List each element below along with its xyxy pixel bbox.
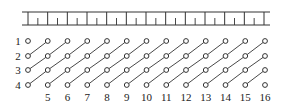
connection-line — [147, 56, 167, 70]
connection-line — [127, 41, 147, 56]
row-labels: 1234 — [15, 35, 21, 91]
node-circle — [85, 54, 90, 59]
node-circle — [45, 83, 50, 88]
node-circle — [164, 68, 169, 73]
diagonal-connections — [28, 41, 265, 85]
node-circle — [124, 83, 129, 88]
column-label: 10 — [141, 91, 153, 103]
node-circle — [105, 39, 110, 44]
node-circle — [203, 54, 208, 59]
connection-line — [48, 56, 68, 70]
node-circle — [65, 83, 70, 88]
node-circle — [223, 39, 228, 44]
connection-line — [147, 70, 167, 85]
node-circle — [243, 39, 248, 44]
connection-line — [147, 41, 167, 56]
node-circle — [85, 83, 90, 88]
connection-line — [107, 41, 127, 56]
connection-line — [68, 41, 88, 56]
column-label: 13 — [200, 91, 212, 103]
node-circle — [45, 39, 50, 44]
node-circle — [105, 68, 110, 73]
connection-line — [245, 41, 265, 56]
connection-line — [87, 41, 107, 56]
column-label: 16 — [260, 91, 272, 103]
node-circle — [26, 54, 31, 59]
column-label: 12 — [181, 91, 192, 103]
connection-line — [226, 56, 246, 70]
connection-line — [206, 56, 226, 70]
node-circle — [164, 54, 169, 59]
ruler-scale — [22, 12, 270, 25]
node-circle — [124, 54, 129, 59]
connection-line — [245, 70, 265, 85]
connection-line — [226, 41, 246, 56]
node-circle — [203, 39, 208, 44]
node-circle — [144, 39, 149, 44]
connection-line — [206, 70, 226, 85]
column-label: 6 — [65, 91, 71, 103]
node-circle — [164, 83, 169, 88]
connection-line — [166, 56, 186, 70]
column-label: 15 — [240, 91, 252, 103]
connection-line — [87, 70, 107, 85]
connection-line — [166, 41, 186, 56]
node-circle — [144, 54, 149, 59]
node-circle — [105, 54, 110, 59]
node-circle — [26, 39, 31, 44]
column-label: 11 — [161, 91, 172, 103]
node-circle — [124, 68, 129, 73]
node-circle — [45, 54, 50, 59]
node-circle — [263, 68, 268, 73]
node-circle — [184, 68, 189, 73]
node-circle — [26, 83, 31, 88]
row-label: 4 — [15, 79, 21, 91]
connection-line — [127, 70, 147, 85]
connection-line — [166, 70, 186, 85]
node-circle — [203, 83, 208, 88]
connection-line — [107, 70, 127, 85]
connection-line — [68, 56, 88, 70]
column-label: 8 — [104, 91, 110, 103]
node-circle — [243, 68, 248, 73]
node-circle — [243, 83, 248, 88]
node-circle — [263, 54, 268, 59]
column-labels: 5678910111213141516 — [45, 91, 271, 103]
node-circle — [184, 83, 189, 88]
connection-line — [127, 56, 147, 70]
node-circle — [184, 54, 189, 59]
connection-line — [48, 41, 68, 56]
column-label: 14 — [220, 91, 232, 103]
connection-line — [28, 70, 48, 85]
connection-line — [186, 41, 206, 56]
node-circle — [203, 68, 208, 73]
node-circle — [263, 39, 268, 44]
connection-line — [28, 41, 48, 56]
diagonal-connection-diagram: 1234 5678910111213141516 — [0, 0, 286, 107]
node-circle — [263, 83, 268, 88]
column-label: 5 — [45, 91, 51, 103]
node-circle — [26, 68, 31, 73]
connection-line — [245, 56, 265, 70]
node-circle — [223, 54, 228, 59]
node-circle — [184, 39, 189, 44]
grid-nodes — [26, 39, 268, 88]
column-label: 9 — [124, 91, 130, 103]
node-circle — [124, 39, 129, 44]
node-circle — [45, 68, 50, 73]
node-circle — [144, 83, 149, 88]
row-label: 1 — [15, 35, 21, 47]
node-circle — [223, 83, 228, 88]
row-label: 2 — [15, 50, 21, 62]
node-circle — [65, 39, 70, 44]
node-circle — [243, 54, 248, 59]
node-circle — [85, 68, 90, 73]
node-circle — [105, 83, 110, 88]
connection-line — [48, 70, 68, 85]
connection-line — [186, 56, 206, 70]
node-circle — [65, 54, 70, 59]
connection-line — [28, 56, 48, 70]
connection-line — [107, 56, 127, 70]
row-label: 3 — [15, 64, 21, 76]
node-circle — [223, 68, 228, 73]
